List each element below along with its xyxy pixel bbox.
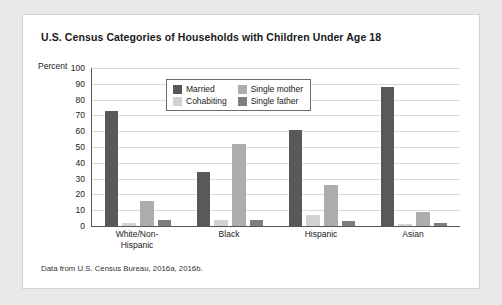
x-axis-label-white-non-hispanic: White/Non-Hispanic xyxy=(91,229,183,251)
bar xyxy=(342,221,356,226)
y-tick-label-30: 30 xyxy=(76,174,85,184)
bar-group xyxy=(368,68,460,226)
bar xyxy=(232,144,246,226)
x-axis-category-labels: White/Non-HispanicBlackHispanicAsian xyxy=(91,229,459,269)
bar xyxy=(158,220,172,226)
bar xyxy=(306,215,320,226)
bar xyxy=(324,185,338,226)
source-note: Data from U.S. Census Bureau, 2016a, 201… xyxy=(41,264,203,273)
bar xyxy=(140,201,154,226)
legend-swatch-single-father xyxy=(238,97,247,106)
y-tick-label-10: 10 xyxy=(76,205,85,215)
bar xyxy=(250,220,264,226)
legend-label: Single father xyxy=(251,96,299,106)
legend-swatch-single-mother xyxy=(238,85,247,94)
y-tick-label-70: 70 xyxy=(76,110,85,120)
y-tick-label-80: 80 xyxy=(76,95,85,105)
x-axis-label-hispanic: Hispanic xyxy=(275,229,367,240)
legend-entry-married: Married xyxy=(173,84,227,94)
y-tick-label-60: 60 xyxy=(76,126,85,136)
bar xyxy=(289,130,303,226)
bar xyxy=(434,223,448,226)
y-tick-label-100: 100 xyxy=(71,63,85,73)
legend-entry-single-father: Single father xyxy=(238,96,303,106)
bar xyxy=(381,87,395,226)
legend-swatch-married xyxy=(173,85,182,94)
x-axis-label-asian: Asian xyxy=(367,229,459,240)
figure-panel: U.S. Census Categories of Households wit… xyxy=(22,14,480,289)
bar xyxy=(105,111,119,226)
legend-label: Married xyxy=(186,84,215,94)
bar xyxy=(197,172,211,226)
legend-entry-single-mother: Single mother xyxy=(238,84,303,94)
y-axis-tick-labels: 0102030405060708090100 xyxy=(23,68,89,226)
bar xyxy=(122,223,136,226)
y-tick-label-20: 20 xyxy=(76,189,85,199)
bar xyxy=(214,220,228,226)
y-tick-label-0: 0 xyxy=(80,221,85,231)
y-tick-label-50: 50 xyxy=(76,142,85,152)
y-tick-label-90: 90 xyxy=(76,79,85,89)
chart-title: U.S. Census Categories of Households wit… xyxy=(41,31,381,43)
chart-legend: MarriedSingle motherCohabitingSingle fat… xyxy=(166,79,311,111)
bar xyxy=(416,212,430,226)
x-axis-label-black: Black xyxy=(183,229,275,240)
y-tick-label-40: 40 xyxy=(76,158,85,168)
legend-entry-cohabiting: Cohabiting xyxy=(173,96,227,106)
legend-label: Single mother xyxy=(251,84,303,94)
legend-label: Cohabiting xyxy=(186,96,227,106)
legend-swatch-cohabiting xyxy=(173,97,182,106)
bar xyxy=(398,224,412,226)
